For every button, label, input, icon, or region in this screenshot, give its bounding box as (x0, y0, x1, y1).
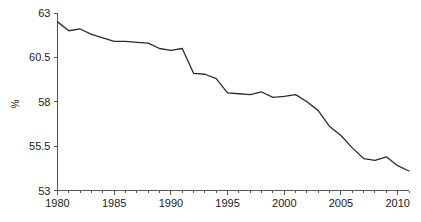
x-tick-labels: 1980198519901995200020052010 (45, 197, 410, 209)
line-chart: 5355.55860.563 % 19801985199019952000200… (0, 0, 421, 222)
y-tick-label: 53 (38, 185, 50, 197)
y-tick-label: 58 (38, 96, 50, 108)
x-axis-group: 1980198519901995200020052010 (45, 191, 410, 209)
y-tick-label: 63 (38, 7, 50, 19)
x-tick-label: 1980 (45, 197, 69, 209)
x-tick-label: 2005 (329, 197, 353, 209)
x-tick-marks (58, 191, 410, 196)
y-tick-marks (54, 13, 58, 191)
y-tick-label: 55.5 (29, 140, 50, 152)
y-axis-group: 5355.55860.563 % (10, 7, 58, 197)
y-axis-title: % (10, 99, 21, 108)
x-tick-label: 1985 (102, 197, 126, 209)
y-tick-label: 60.5 (29, 51, 50, 63)
x-tick-label: 1995 (215, 197, 239, 209)
chart-figure: 5355.55860.563 % 19801985199019952000200… (0, 0, 421, 222)
y-tick-labels: 5355.55860.563 (29, 7, 50, 197)
x-tick-label: 2000 (272, 197, 296, 209)
data-line-percent (58, 22, 410, 171)
x-tick-label: 2010 (385, 197, 409, 209)
x-tick-label: 1990 (159, 197, 183, 209)
